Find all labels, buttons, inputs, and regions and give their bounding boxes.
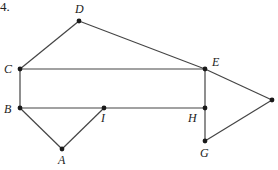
point-label-A: A — [57, 153, 66, 167]
segment-CD — [20, 21, 79, 69]
point-D — [77, 19, 82, 24]
label-layer: DCEBIHAG — [4, 2, 220, 167]
point-G — [203, 139, 208, 144]
geometry-figure: DCEBIHAG — [0, 0, 278, 170]
point-label-I: I — [100, 111, 106, 125]
point-F — [270, 98, 275, 103]
segment-AI — [62, 108, 104, 149]
point-label-D: D — [74, 2, 84, 16]
point-H — [203, 106, 208, 111]
problem-number: 4. — [0, 0, 10, 13]
point-B — [18, 106, 23, 111]
point-I — [102, 106, 107, 111]
point-label-G: G — [200, 146, 209, 160]
point-C — [18, 67, 23, 72]
point-label-E: E — [211, 55, 220, 69]
geometry-diagram: 4. DCEBIHAG — [0, 0, 278, 170]
segment-layer — [20, 21, 272, 149]
point-label-H: H — [187, 111, 198, 125]
segment-EF — [205, 69, 272, 100]
point-layer — [18, 19, 275, 152]
segment-DE — [79, 21, 205, 69]
point-A — [60, 147, 65, 152]
point-label-B: B — [4, 102, 12, 116]
segment-BA — [20, 108, 62, 149]
point-E — [203, 67, 208, 72]
point-label-C: C — [4, 62, 13, 76]
segment-FG — [205, 100, 272, 141]
